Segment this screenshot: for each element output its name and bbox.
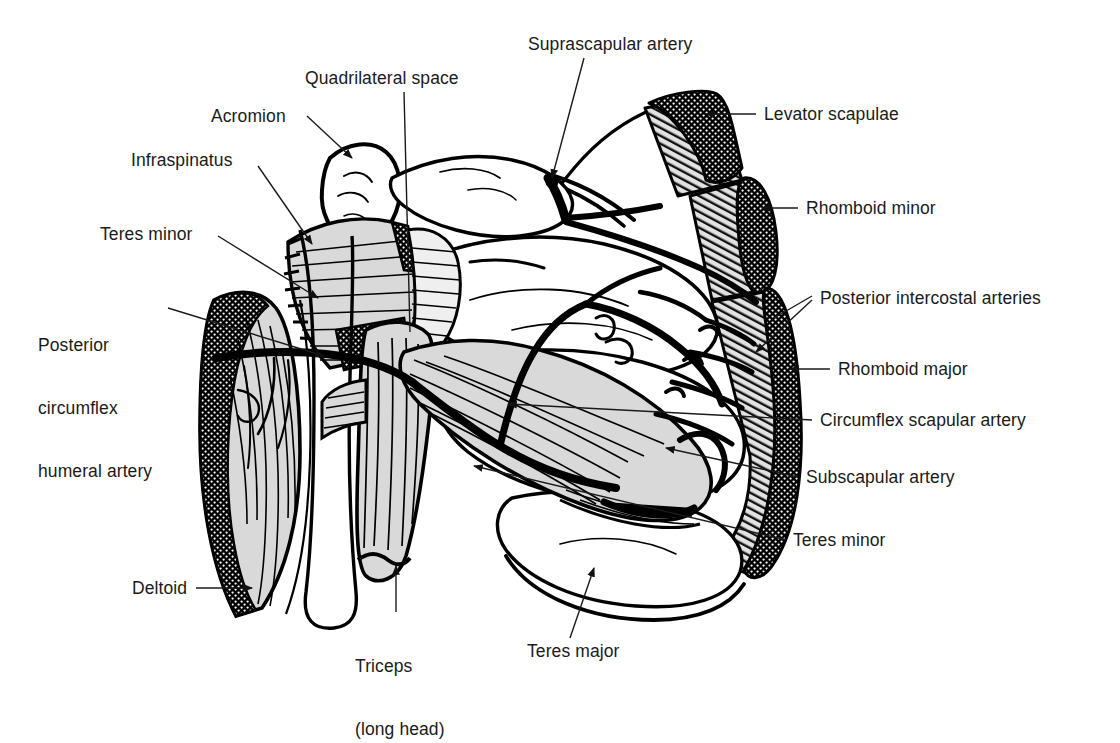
deltoid-muscle bbox=[200, 292, 311, 616]
label-triceps-long-head: Triceps (long head) bbox=[355, 614, 445, 743]
label-teres-minor-left: Teres minor bbox=[100, 224, 193, 245]
scapular-spine-body bbox=[391, 157, 573, 237]
suprascapular-artery-course bbox=[566, 206, 660, 218]
label-line-2: (long head) bbox=[355, 719, 445, 740]
label-teres-minor-right: Teres minor bbox=[793, 530, 886, 551]
label-deltoid: Deltoid bbox=[132, 578, 187, 599]
label-infraspinatus: Infraspinatus bbox=[131, 150, 233, 171]
label-teres-major: Teres major bbox=[527, 641, 620, 662]
label-line-1: Posterior bbox=[38, 335, 152, 356]
label-posterior-intercostal-arteries: Posterior intercostal arteries bbox=[820, 288, 1041, 309]
leader-acromion bbox=[307, 116, 352, 158]
label-circumflex-scapular-artery: Circumflex scapular artery bbox=[820, 410, 1026, 431]
label-levator-scapulae: Levator scapulae bbox=[764, 104, 899, 125]
label-posterior-circumflex-humeral-artery: Posterior circumflex humeral artery bbox=[38, 293, 152, 524]
label-rhomboid-major: Rhomboid major bbox=[838, 359, 968, 380]
leader-infraspinatus bbox=[258, 166, 312, 244]
label-acromion: Acromion bbox=[211, 106, 286, 127]
label-rhomboid-minor: Rhomboid minor bbox=[806, 198, 936, 219]
label-line-3: humeral artery bbox=[38, 461, 152, 482]
label-subscapular-artery: Subscapular artery bbox=[806, 467, 955, 488]
label-suprascapular-artery: Suprascapular artery bbox=[528, 34, 692, 55]
label-line-1: Triceps bbox=[355, 656, 445, 677]
label-line-2: circumflex bbox=[38, 398, 152, 419]
label-quadrilateral-space: Quadrilateral space bbox=[305, 68, 459, 89]
